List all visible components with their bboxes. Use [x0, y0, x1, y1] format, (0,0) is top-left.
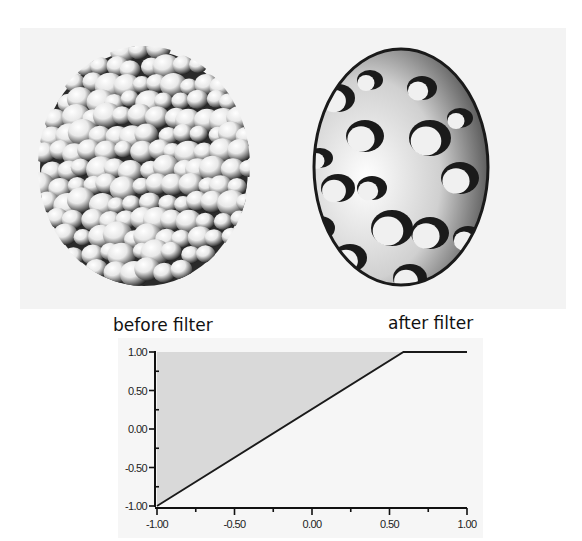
y-tick-label: 0.50	[128, 385, 147, 397]
after-filter-label: after filter	[388, 313, 473, 333]
before-filter-label: before filter	[113, 315, 213, 335]
sphere-renders	[20, 28, 566, 309]
y-tick-label: -0.50	[125, 462, 148, 474]
x-tick-label: 0.50	[380, 518, 399, 530]
render-panel	[20, 28, 566, 309]
x-tick-label: -1.00	[146, 518, 169, 530]
y-tick-label: 1.00	[128, 346, 147, 358]
x-tick-label: 1.00	[457, 518, 476, 530]
transfer-function-chart: 1.000.500.00-0.50-1.00-1.00-0.500.000.50…	[118, 338, 483, 538]
chart-canvas: 1.000.500.00-0.50-1.00-1.00-0.500.000.50…	[118, 338, 483, 538]
y-tick-label: -1.00	[125, 500, 148, 512]
x-tick-label: -0.50	[223, 518, 246, 530]
x-tick-label: 0.00	[302, 518, 321, 530]
plot-area	[157, 352, 467, 506]
y-tick-label: 0.00	[128, 423, 147, 435]
after-filter-sphere	[305, 49, 488, 292]
before-filter-sphere	[25, 37, 258, 287]
